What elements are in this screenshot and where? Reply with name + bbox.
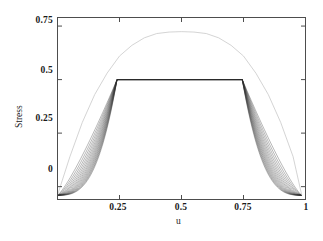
plot-frame	[58, 18, 306, 200]
xtick-label-025: 0.25	[100, 202, 136, 212]
xtick-label-05: 0.5	[163, 202, 199, 212]
ytick-label-05: 0.5	[20, 65, 53, 75]
x-axis-title: u	[176, 216, 181, 226]
chart-curve	[58, 80, 302, 196]
chart-curve	[58, 80, 302, 196]
chart-curve	[58, 80, 302, 196]
ytick-label-025: 0.25	[20, 113, 53, 123]
chart-curve	[58, 80, 302, 196]
chart-curve	[58, 80, 302, 196]
chart-curve	[58, 80, 302, 196]
chart-curve	[58, 80, 302, 196]
axis-frame-group	[58, 18, 306, 200]
y-axis-title: Stress	[14, 105, 24, 128]
chart-curve	[58, 80, 302, 196]
chart-curve	[58, 80, 302, 196]
chart-curve	[58, 32, 302, 196]
chart-curve	[58, 80, 302, 196]
chart-curve	[58, 80, 302, 196]
chart-curve	[58, 80, 302, 196]
curve-series-group	[58, 32, 302, 196]
ytick-label-075: 0.75	[20, 15, 53, 25]
chart-curve	[58, 80, 302, 196]
stress-chart-figure: 0.75 0.5 0.25 0 0.25 0.5 0.75 1 Stress u	[0, 0, 323, 241]
axis-ticks-group	[58, 18, 306, 200]
chart-curve	[58, 80, 302, 196]
xtick-label-1: 1	[288, 202, 323, 212]
chart-curve	[58, 80, 302, 196]
xtick-label-075: 0.75	[225, 202, 261, 212]
chart-curve	[58, 80, 302, 196]
ytick-label-0: 0	[20, 164, 53, 174]
